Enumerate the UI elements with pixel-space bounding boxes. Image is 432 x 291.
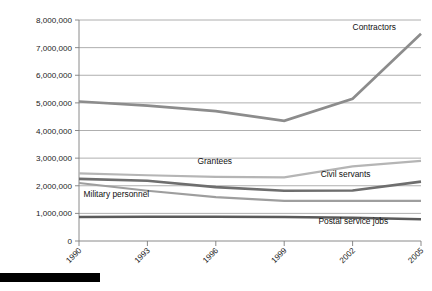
x-tick-label: 2002 (338, 246, 357, 265)
series-labels: ContractorsGranteesCivil servantsMilitar… (84, 22, 396, 226)
series-label-contractors: Contractors (353, 22, 396, 32)
y-tick-label: 0 (67, 237, 72, 246)
line-chart: 01,000,0002,000,0003,000,0004,000,0005,0… (0, 0, 432, 291)
y-tick-label: 7,000,000 (36, 44, 73, 53)
y-tick-label: 4,000,000 (36, 127, 73, 136)
x-tick-label: 2005 (406, 246, 425, 265)
footer-black-bar (0, 273, 100, 282)
series-label-military-personnel: Military personnel (84, 189, 150, 199)
series-label-grantees: Grantees (198, 156, 232, 166)
y-tick-label: 6,000,000 (36, 71, 73, 80)
x-tick-label: 1990 (64, 246, 83, 265)
x-tick-label: 1996 (201, 246, 220, 265)
y-axis-tick-labels: 01,000,0002,000,0003,000,0004,000,0005,0… (36, 16, 73, 246)
x-tick-label: 1993 (133, 246, 152, 265)
y-tick-label: 5,000,000 (36, 99, 73, 108)
y-tick-label: 1,000,000 (36, 209, 73, 218)
x-tick-label: 1999 (270, 246, 289, 265)
series-line-contractors (79, 34, 421, 121)
y-tick-label: 8,000,000 (36, 16, 73, 25)
series-label-civil-servants: Civil servants (321, 169, 371, 179)
y-tick-label: 2,000,000 (36, 182, 73, 191)
y-tick-label: 3,000,000 (36, 154, 73, 163)
series-label-postal-service-jobs: Postal service jobs (318, 216, 388, 226)
x-axis-tick-labels: 199019931996199920022005 (64, 241, 425, 265)
chart-canvas: 01,000,0002,000,0003,000,0004,000,0005,0… (0, 0, 432, 291)
gridlines (75, 20, 421, 241)
